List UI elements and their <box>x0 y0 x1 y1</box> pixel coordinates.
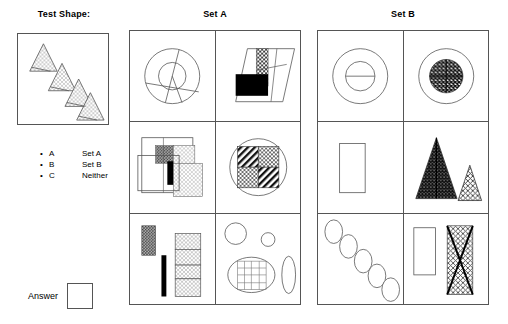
legend-row: • B Set B <box>40 159 108 170</box>
bullet-icon: • <box>40 148 49 159</box>
legend-row: • C Neither <box>40 170 108 181</box>
set-b-cell-row2-col2[interactable] <box>404 122 489 212</box>
legend: • A Set A • B Set B • C Neither <box>40 148 108 181</box>
test-shape-panel <box>17 33 109 125</box>
legend-key: A <box>49 148 82 159</box>
legend-key: B <box>49 159 82 170</box>
test-shape-figure <box>18 34 108 124</box>
set-b-cell-row3-col2[interactable] <box>404 214 489 304</box>
set-a-cell-row3-col1[interactable] <box>130 214 215 304</box>
legend-value: Set B <box>82 159 102 170</box>
set-a-cell-row3-col2[interactable] <box>216 214 301 304</box>
set-a-cell-row2-col1[interactable] <box>130 122 215 212</box>
set-a-grid <box>129 30 301 305</box>
set-b-heading: Set B <box>338 9 468 19</box>
set-a-heading: Set A <box>150 9 280 19</box>
set-b-cell-row2-col1[interactable] <box>318 122 403 212</box>
set-b-cell-row3-col1[interactable] <box>318 214 403 304</box>
set-a-cell-row2-col2[interactable] <box>216 122 301 212</box>
legend-key: C <box>49 170 82 181</box>
answer-area: Answer <box>28 283 93 309</box>
answer-label: Answer <box>28 291 58 301</box>
test-shape-heading: Test Shape: <box>14 9 114 19</box>
set-b-cell-row1-col2[interactable] <box>404 31 489 121</box>
set-a-cell-row1-col2[interactable] <box>216 31 301 121</box>
set-a-cell-row1-col1[interactable] <box>130 31 215 121</box>
bullet-icon: • <box>40 170 49 181</box>
bullet-icon: • <box>40 159 49 170</box>
legend-value: Set A <box>82 148 101 159</box>
legend-row: • A Set A <box>40 148 108 159</box>
legend-value: Neither <box>82 170 108 181</box>
set-b-cell-row1-col1[interactable] <box>318 31 403 121</box>
answer-input-box[interactable] <box>67 283 93 309</box>
puzzle-stage: Test Shape: Set A Set B <box>0 0 508 324</box>
set-b-grid <box>317 30 489 305</box>
